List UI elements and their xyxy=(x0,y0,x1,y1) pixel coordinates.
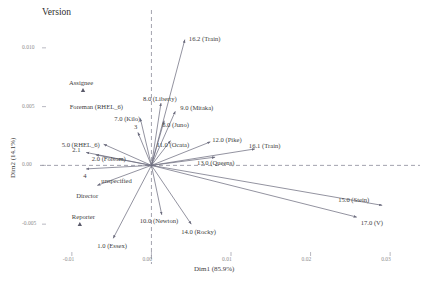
y-tick-label: -0.005 xyxy=(22,221,36,227)
category-arrow-label: 6.0 (Juno) xyxy=(162,122,189,129)
x-tick-label: 0.00 xyxy=(142,257,152,263)
category-arrow-label: 9.0 (Mitaka) xyxy=(180,105,213,112)
category-arrow-label: 4 xyxy=(83,173,86,180)
category-arrow-label: 5.0 (RHEL_6) xyxy=(62,142,100,149)
category-arrow-label: unspecified xyxy=(101,178,131,185)
category-arrow-label: 1.0 (Essex) xyxy=(97,243,127,250)
category-arrow-label: 11.0 (Ocata) xyxy=(157,142,190,149)
category-arrow-label: 2.0 (Folsom) xyxy=(92,156,126,163)
category-arrow-label: 12.0 (Pike) xyxy=(212,137,241,144)
category-arrow-label: 8.0 (Liberty) xyxy=(143,96,177,103)
x-tick-label: 0.02 xyxy=(302,257,312,263)
y-tick-label: 0.010 xyxy=(22,45,34,51)
category-arrow-label: 2.1 xyxy=(72,147,80,154)
x-tick-label: 0.03 xyxy=(381,257,391,263)
category-arrow-label: 7.0 (Kilo) xyxy=(114,116,140,123)
y-tick-label: 0.005 xyxy=(22,104,34,110)
category-arrow-label: 16.1 (Train) xyxy=(249,143,281,150)
category-arrow-label: 13.0 (Queens) xyxy=(197,160,234,167)
category-arrow-label: 17.0 (V) xyxy=(361,220,383,227)
category-arrow-label: 14.0 (Rocky) xyxy=(181,229,216,236)
variable-point-label: Director xyxy=(76,193,98,200)
y-tick-label: 0.00 xyxy=(22,162,32,168)
variable-point-label: Assignee xyxy=(69,80,93,87)
x-tick-label: -0.01 xyxy=(63,257,74,263)
x-axis-title: Dim1 (85.9%) xyxy=(194,266,234,273)
category-arrow-label: 3 xyxy=(134,124,137,131)
page-title: Version xyxy=(42,8,71,18)
variable-point-label: Reporter xyxy=(72,214,95,221)
chart-canvas: Version Dim2 (14.1%) Dim1 (85.9%) -0.010… xyxy=(0,0,422,283)
y-axis-title: Dim2 (14.1%) xyxy=(10,138,17,178)
category-arrow-label: 10.0 (Newton) xyxy=(140,218,178,225)
tick-marks xyxy=(42,48,390,256)
variable-point-label: Foreman (RHEL_6) xyxy=(70,104,123,111)
x-tick-label: 0.01 xyxy=(222,257,232,263)
category-arrow-label: 16.2 (Train) xyxy=(189,36,221,43)
category-arrow-label: 15.0 (Stein) xyxy=(338,197,369,204)
